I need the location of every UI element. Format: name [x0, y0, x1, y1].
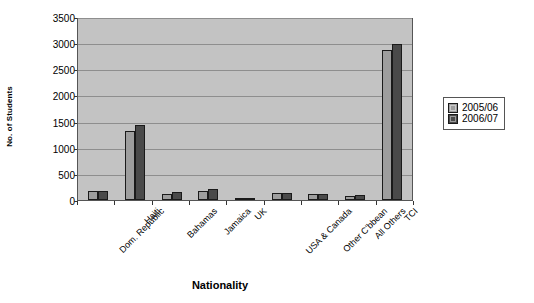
- chart-legend: 2005/062006/07: [443, 97, 505, 130]
- bar-group: [337, 19, 374, 200]
- bar-group: [263, 19, 300, 200]
- bar: [88, 191, 98, 200]
- bar: [272, 193, 282, 200]
- bar: [382, 50, 392, 200]
- bar-group: [190, 19, 227, 200]
- bar: [308, 194, 318, 200]
- bar-group: [227, 19, 264, 200]
- x-tick-label: TCI: [403, 206, 420, 223]
- x-tick-label: UK: [253, 206, 269, 222]
- bar: [245, 198, 255, 200]
- x-tick-label: Jamaica: [221, 206, 252, 237]
- bar: [98, 191, 108, 200]
- y-tick-label: 2000: [3, 91, 75, 102]
- bar: [162, 194, 172, 200]
- y-tick-label: 1500: [3, 117, 75, 128]
- legend-label: 2005/06: [462, 103, 498, 113]
- legend-swatch: [448, 103, 458, 113]
- bar-group: [300, 19, 337, 200]
- y-tick-label: 1000: [3, 143, 75, 154]
- bar-group: [117, 19, 154, 200]
- bar-group: [80, 19, 117, 200]
- legend-item: 2005/06: [448, 103, 498, 113]
- bar-group: [153, 19, 190, 200]
- bar: [235, 198, 245, 200]
- y-axis-ticks: 0500100015002000250030003500: [0, 0, 75, 220]
- bar: [282, 193, 292, 200]
- y-tick-label: 3000: [3, 39, 75, 50]
- bar-chart: No. of Students 050010001500200025003000…: [0, 0, 534, 303]
- legend-item: 2006/07: [448, 114, 498, 124]
- y-tick-label: 2500: [3, 65, 75, 76]
- bar: [135, 125, 145, 200]
- bar: [125, 131, 135, 200]
- plot-area: [77, 18, 413, 201]
- legend-label: 2006/07: [462, 114, 498, 124]
- bar: [355, 195, 365, 200]
- bar: [392, 44, 402, 200]
- x-axis-labels: Dom. RepublicHaitiBahamasJamaicaUKUSA & …: [0, 204, 534, 274]
- y-tick-label: 500: [3, 169, 75, 180]
- bar-group: [373, 19, 410, 200]
- legend-swatch: [448, 114, 458, 124]
- y-tick-label: 3500: [3, 13, 75, 24]
- x-axis-title-text: Nationality: [192, 279, 248, 291]
- bar: [345, 196, 355, 200]
- x-axis-title: Nationality: [0, 279, 440, 291]
- x-tick-label: Bahamas: [185, 206, 219, 240]
- bar: [172, 192, 182, 200]
- bar: [208, 189, 218, 200]
- bar: [198, 191, 208, 200]
- bar-groups: [78, 19, 412, 200]
- bar: [318, 194, 328, 200]
